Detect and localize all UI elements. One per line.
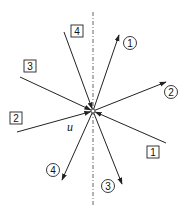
outgoing-vector-2	[93, 82, 166, 111]
outgoing-vectors	[62, 35, 166, 184]
incoming-vector-4	[64, 32, 92, 109]
svg-text:4: 4	[74, 26, 80, 37]
incoming-vectors	[17, 32, 166, 143]
circled-label-3: 3	[102, 180, 115, 193]
boxed-label-1: 1	[147, 146, 159, 158]
outgoing-vector-1	[93, 35, 119, 111]
center-label: u	[67, 120, 73, 134]
incoming-vector-1	[95, 112, 166, 143]
svg-text:3: 3	[105, 181, 111, 192]
svg-text:4: 4	[50, 165, 56, 176]
boxed-label-4: 4	[71, 25, 83, 37]
center-point	[91, 109, 95, 113]
incoming-vector-2	[17, 112, 91, 132]
boxed-label-3: 3	[24, 60, 36, 72]
circled-label-2: 2	[165, 86, 178, 99]
vector-diagram: 12341234 u	[0, 0, 188, 214]
svg-text:1: 1	[150, 147, 156, 158]
svg-text:2: 2	[168, 87, 174, 98]
svg-text:2: 2	[13, 113, 19, 124]
circled-label-4: 4	[47, 164, 60, 177]
svg-text:3: 3	[27, 61, 33, 72]
incoming-vector-3	[20, 77, 91, 110]
svg-text:1: 1	[127, 38, 133, 49]
boxed-label-2: 2	[10, 112, 22, 124]
circled-label-1: 1	[124, 37, 137, 50]
